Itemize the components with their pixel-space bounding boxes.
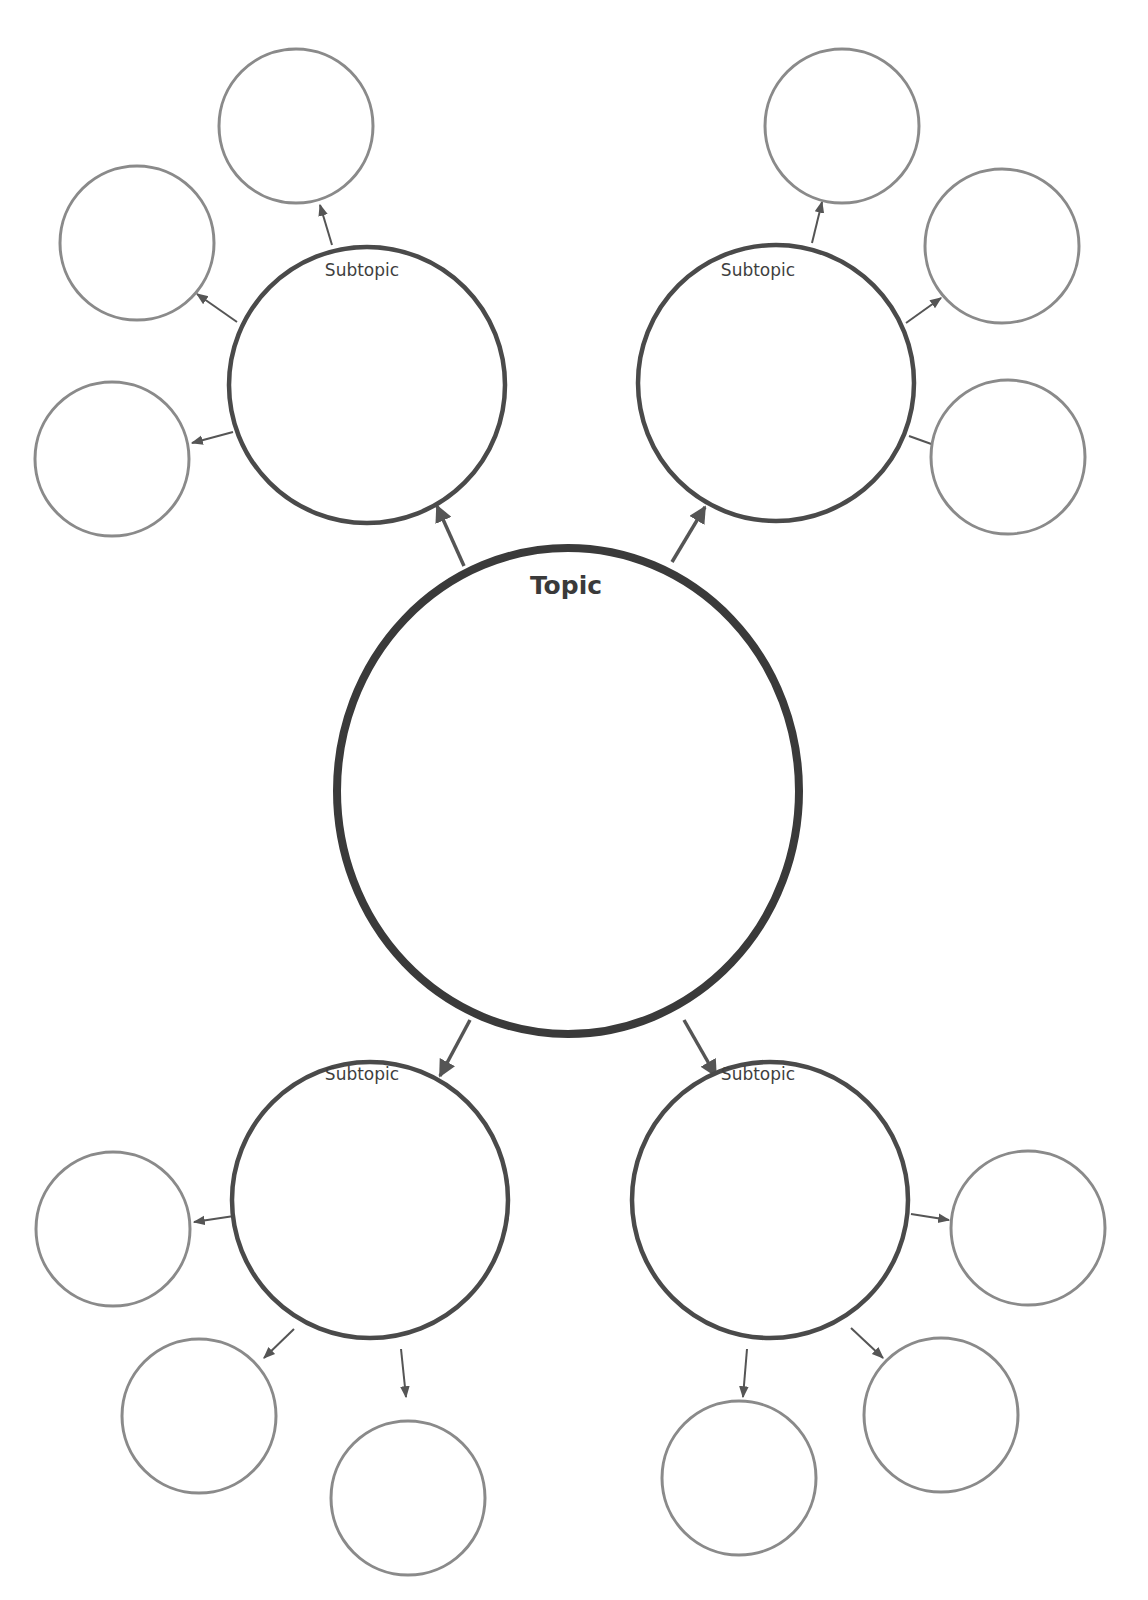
subtopic-top-right: Subtopic xyxy=(638,245,914,521)
detail-bubble-top-left-1[interactable] xyxy=(219,49,373,203)
topic-bubble[interactable] xyxy=(337,548,799,1034)
bubble-map-diagram: SubtopicSubtopicSubtopicSubtopic Topic xyxy=(0,0,1148,1600)
subtopic-to-detail-arrow xyxy=(906,298,941,323)
detail-bubble-top-right-2[interactable] xyxy=(925,169,1079,323)
subtopic-bubble[interactable] xyxy=(638,245,914,521)
detail-bubble-bottom-left-3[interactable] xyxy=(331,1421,485,1575)
subtopic-to-detail-arrow xyxy=(812,202,822,243)
detail-bubble-bottom-left-1[interactable] xyxy=(36,1152,190,1306)
subtopic-to-detail-arrow xyxy=(851,1328,883,1358)
topic-to-subtopic-arrow xyxy=(672,507,705,562)
subtopic-to-detail-arrow xyxy=(194,1216,234,1222)
detail-bubble-bottom-right-2[interactable] xyxy=(864,1338,1018,1492)
subtopic-bubble[interactable] xyxy=(229,247,505,523)
detail-bubble-top-right-3[interactable] xyxy=(931,380,1085,534)
subtopic-to-detail-arrow xyxy=(320,205,332,245)
subtopic-label: Subtopic xyxy=(325,1064,399,1084)
subtopic-bottom-right: Subtopic xyxy=(632,1062,908,1338)
detail-bubble-bottom-right-1[interactable] xyxy=(951,1151,1105,1305)
topic-to-subtopic-arrow xyxy=(684,1020,716,1076)
detail-bubble-top-right-1[interactable] xyxy=(765,49,919,203)
subtopic-to-detail-arrow xyxy=(401,1349,406,1397)
topic-to-subtopic-arrow xyxy=(437,506,464,566)
subtopic-to-detail-arrow xyxy=(197,294,237,322)
topic-bubble-group: Topic xyxy=(337,548,799,1034)
subtopic-to-detail-arrow xyxy=(743,1349,747,1397)
subtopic-to-detail-arrow xyxy=(192,432,233,443)
subtopic-to-detail-arrow xyxy=(911,1214,949,1220)
subtopic-bubble[interactable] xyxy=(632,1062,908,1338)
detail-bubble-top-left-3[interactable] xyxy=(35,382,189,536)
topic-label: Topic xyxy=(530,571,602,600)
detail-bubble-bottom-left-2[interactable] xyxy=(122,1339,276,1493)
subtopic-bubble[interactable] xyxy=(232,1062,508,1338)
subtopic-to-detail-arrow xyxy=(264,1329,294,1358)
subtopic-label: Subtopic xyxy=(721,260,795,280)
detail-bubble-top-left-2[interactable] xyxy=(60,166,214,320)
topic-to-subtopic-arrow xyxy=(440,1020,470,1076)
subtopic-label: Subtopic xyxy=(721,1064,795,1084)
subtopic-top-left: Subtopic xyxy=(229,247,505,523)
subtopic-label: Subtopic xyxy=(325,260,399,280)
subtopic-bottom-left: Subtopic xyxy=(232,1062,508,1338)
detail-bubble-bottom-right-3[interactable] xyxy=(662,1401,816,1555)
